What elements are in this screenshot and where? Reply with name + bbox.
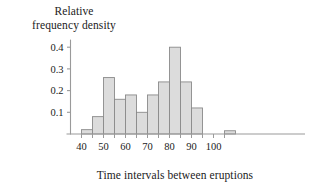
histogram-bar <box>170 47 181 134</box>
x-axis-tick-label: 70 <box>142 141 153 152</box>
histogram-bar <box>82 130 93 134</box>
histogram-bar <box>148 95 159 134</box>
histogram-bar <box>93 117 104 134</box>
histogram-bar <box>115 99 126 134</box>
histogram-bar <box>159 82 170 134</box>
y-axis-tick-label: 0.4 <box>50 42 64 53</box>
histogram-bar <box>181 82 192 134</box>
histogram-bar <box>126 95 137 134</box>
y-axis-tick-label: 0.3 <box>50 64 63 75</box>
histogram-bar <box>104 78 115 134</box>
x-axis-tick-label: 100 <box>206 141 222 152</box>
histogram-figure: Relative frequency density 0.10.20.30.44… <box>0 0 312 193</box>
x-axis-tick-label: 80 <box>164 141 175 152</box>
y-axis-tick-label: 0.2 <box>50 85 63 96</box>
bars-group <box>82 47 236 134</box>
x-axis-tick-label: 50 <box>98 141 109 152</box>
y-axis-tick-label: 0.1 <box>50 107 63 118</box>
histogram-bar <box>137 112 148 134</box>
x-axis-tick-label: 60 <box>120 141 131 152</box>
histogram-bar <box>192 108 203 134</box>
x-axis-tick-label: 90 <box>186 141 197 152</box>
plot-area: 0.10.20.30.4405060708090100 <box>0 0 312 193</box>
x-axis-label: Time intervals between eruptions <box>60 168 290 182</box>
x-axis-tick-label: 40 <box>76 141 87 152</box>
